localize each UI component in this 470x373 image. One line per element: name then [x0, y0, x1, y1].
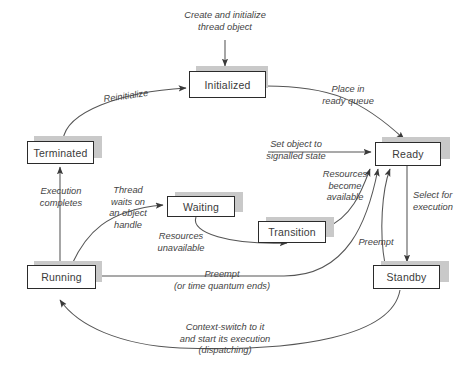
- label-create-thread-object: Create and initialize thread object: [165, 10, 285, 33]
- state-ready[interactable]: Ready: [375, 142, 441, 166]
- state-standby[interactable]: Standby: [373, 265, 440, 289]
- label-place-in-ready-queue: Place in ready queue: [310, 84, 386, 107]
- label-preempt-time-quantum: Preempt (or time quantum ends): [152, 269, 292, 292]
- label-resources-become-available: Resources become available: [313, 169, 377, 204]
- state-transition[interactable]: Transition: [258, 221, 326, 243]
- state-running[interactable]: Running: [27, 265, 96, 289]
- state-initialized[interactable]: Initialized: [189, 71, 266, 98]
- thread-state-diagram: Initialized Ready Terminated Waiting Tra…: [0, 0, 470, 373]
- label-select-for-execution: Select for execution: [413, 190, 470, 213]
- edge-standby-to-ready: [382, 169, 390, 264]
- label-execution-completes: Execution completes: [22, 186, 100, 209]
- label-set-object-signalled: Set object to signalled state: [252, 139, 340, 162]
- label-resources-unavailable: Resources unavailable: [139, 231, 223, 254]
- state-waiting[interactable]: Waiting: [167, 196, 235, 217]
- state-terminated[interactable]: Terminated: [27, 141, 94, 164]
- label-thread-waits-on-object-handle: Thread waits on an object handle: [95, 185, 161, 231]
- label-context-switch-dispatching: Context-switch to it and start its execu…: [140, 322, 310, 357]
- label-preempt-standby: Preempt: [350, 237, 402, 249]
